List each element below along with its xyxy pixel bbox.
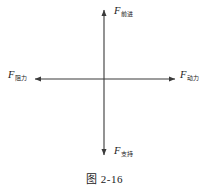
force-diagram-figure: F前进 F支持 F阻力 F动力 图 2-16: [0, 0, 209, 193]
force-axes-graphic: [0, 0, 209, 193]
force-label-up: F前进: [114, 6, 133, 17]
force-subscript-left: 阻力: [15, 75, 27, 81]
force-symbol-down: F: [114, 145, 120, 156]
force-symbol-up: F: [114, 5, 120, 16]
force-subscript-down: 支持: [121, 151, 133, 157]
force-label-right: F动力: [180, 70, 199, 81]
force-symbol-left: F: [8, 69, 14, 80]
force-subscript-right: 动力: [187, 75, 199, 81]
force-label-left: F阻力: [8, 70, 27, 81]
force-symbol-right: F: [180, 69, 186, 80]
force-subscript-up: 前进: [121, 11, 133, 17]
figure-caption: 图 2-16: [0, 170, 209, 186]
force-label-down: F支持: [114, 146, 133, 157]
